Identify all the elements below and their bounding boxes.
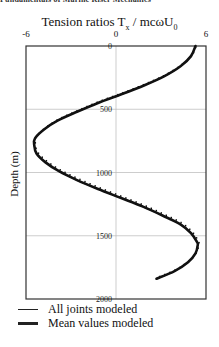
y-tick-label: 1000 xyxy=(96,169,112,178)
y-tick-label: 500 xyxy=(100,105,112,114)
plot-area: 0500100015002000 xyxy=(0,0,219,347)
legend-item-mean-values: Mean values modeled xyxy=(18,316,153,330)
legend-label: All joints modeled xyxy=(48,302,137,316)
thick-line-swatch-icon xyxy=(18,322,38,325)
legend: All joints modeled Mean values modeled xyxy=(18,302,153,330)
y-tick-label: 0 xyxy=(108,42,112,51)
legend-item-all-joints: All joints modeled xyxy=(18,302,153,316)
legend-label: Mean values modeled xyxy=(48,316,153,330)
thin-line-swatch-icon xyxy=(18,309,38,310)
y-tick-label: 1500 xyxy=(96,232,112,241)
